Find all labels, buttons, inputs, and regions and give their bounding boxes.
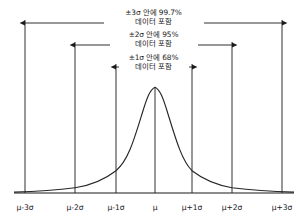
annotation-2sigma: ±2σ 안에 95% 데이터 포함	[0, 31, 307, 48]
annotation-2sigma-line2: 데이터 포함	[0, 40, 307, 49]
bell-curve	[14, 87, 294, 192]
annotation-1sigma-line2: 데이터 포함	[0, 63, 307, 72]
axis-label-minus-1sigma: μ-1σ	[108, 203, 125, 212]
axis-label-plus-1sigma: μ+1σ	[182, 203, 202, 212]
axis-label-minus-3sigma: μ-3σ	[17, 203, 34, 212]
axis-label-mu: μ	[153, 203, 158, 212]
annotation-3sigma-line2: 데이터 포함	[0, 18, 307, 27]
axis-label-plus-3sigma: μ+3σ	[272, 203, 292, 212]
axis-label-plus-2sigma: μ+2σ	[222, 203, 242, 212]
annotation-3sigma: ±3σ 안에 99.7% 데이터 포함	[0, 9, 307, 26]
normal-distribution-figure: ±3σ 안에 99.7% 데이터 포함 ±2σ 안에 95% 데이터 포함 ±1…	[0, 0, 307, 222]
axis-label-minus-2sigma: μ-2σ	[67, 203, 84, 212]
annotation-1sigma: ±1σ 안에 68% 데이터 포함	[0, 54, 307, 71]
